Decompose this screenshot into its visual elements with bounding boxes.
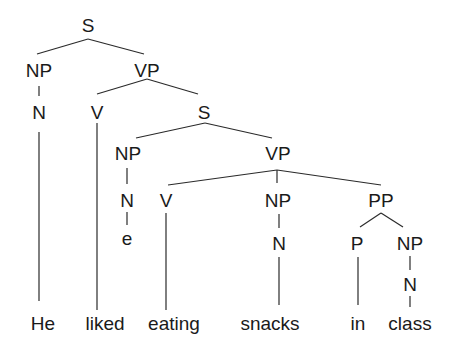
leaf-eating: eating xyxy=(148,313,200,334)
node-n-object: N xyxy=(272,233,286,254)
edge-s2-vp xyxy=(205,123,272,138)
leaf-snacks: snacks xyxy=(240,313,299,334)
leaf-he: He xyxy=(31,313,55,334)
node-vp-main: VP xyxy=(134,60,159,81)
node-np-object: NP xyxy=(265,190,291,211)
node-p: P xyxy=(351,233,364,254)
edge-vp2-pp xyxy=(277,170,381,185)
tree-edges xyxy=(37,39,410,310)
node-np-embedded: NP xyxy=(115,143,141,164)
tree-nodes: S NP VP N V S NP VP N e V NP PP N P NP N xyxy=(26,15,423,295)
tree-canvas: S NP VP N V S NP VP N e V NP PP N P NP N… xyxy=(0,0,458,353)
node-np-pp: NP xyxy=(397,233,423,254)
edge-pp-p xyxy=(360,213,381,227)
edge-vp-v xyxy=(97,79,147,94)
edge-s-vp xyxy=(88,39,144,54)
edge-pp-np xyxy=(381,213,403,227)
syntax-tree-diagram: S NP VP N V S NP VP N e V NP PP N P NP N… xyxy=(0,0,458,353)
leaf-liked: liked xyxy=(85,313,124,334)
node-n-subject: N xyxy=(32,102,46,123)
edge-vp2-v xyxy=(168,170,277,185)
node-np-subject: NP xyxy=(26,60,52,81)
node-empty-category: e xyxy=(122,228,133,249)
node-s-root: S xyxy=(82,15,95,36)
node-vp-embedded: VP xyxy=(265,143,290,164)
node-s-embedded: S xyxy=(198,102,211,123)
node-pp: PP xyxy=(368,190,393,211)
node-n-empty: N xyxy=(120,190,134,211)
edge-s-np xyxy=(37,39,88,54)
node-v-liked: V xyxy=(91,102,104,123)
leaf-in: in xyxy=(351,313,366,334)
tree-leaves: He liked eating snacks in class xyxy=(31,313,432,334)
edge-vp-s xyxy=(147,79,198,94)
node-v-eating: V xyxy=(160,190,173,211)
edge-s2-np xyxy=(136,123,205,138)
leaf-class: class xyxy=(388,313,431,334)
node-n-pp: N xyxy=(403,274,417,295)
